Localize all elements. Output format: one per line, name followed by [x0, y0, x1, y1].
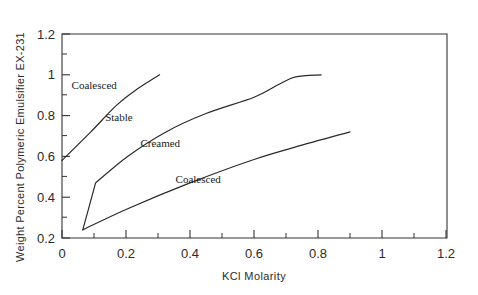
x-tick-label: 0.4	[181, 246, 199, 261]
phase-diagram-chart: 0.2 0.4 0.6 0.8 1 1.2 0 0.2 0.4 0.6 0.8 …	[0, 0, 478, 295]
y-tick-label: 0.4	[37, 190, 55, 205]
y-tick-label: 1.2	[37, 27, 55, 42]
x-axis-tick-labels: 0 0.2 0.4 0.6 0.8 1 1.2	[58, 246, 455, 261]
x-tick-label: 1	[378, 246, 385, 261]
y-tick-label: 0.8	[37, 108, 55, 123]
y-tick-label: 1	[48, 67, 55, 82]
x-tick-label: 0.2	[117, 246, 135, 261]
plot-frame	[62, 34, 447, 238]
y-tick-label: 0.2	[37, 231, 55, 246]
curve-middle-boundary	[83, 75, 321, 230]
region-label-stable: Stable	[105, 111, 133, 123]
y-axis-title: Weight Percent Polymeric Emulsifier EX-2…	[14, 32, 26, 262]
x-axis-ticks	[62, 230, 446, 238]
region-label-coalesced-lower: Coalesced	[176, 173, 222, 185]
x-tick-label: 0.6	[245, 246, 263, 261]
y-tick-label: 0.6	[37, 149, 55, 164]
x-tick-label: 1.2	[437, 246, 455, 261]
x-tick-label: 0.8	[309, 246, 327, 261]
y-axis-ticks	[62, 34, 70, 238]
region-annotations: Coalesced Stable Creamed Coalesced	[72, 79, 222, 185]
y-axis-tick-labels: 0.2 0.4 0.6 0.8 1 1.2	[37, 27, 55, 246]
region-label-creamed: Creamed	[140, 137, 180, 149]
chart-page: 0.2 0.4 0.6 0.8 1 1.2 0 0.2 0.4 0.6 0.8 …	[0, 0, 478, 295]
region-label-coalesced-upper: Coalesced	[72, 79, 118, 91]
x-tick-label: 0	[58, 246, 65, 261]
x-axis-title: KCl Molarity	[222, 270, 286, 282]
data-curves	[62, 75, 350, 230]
